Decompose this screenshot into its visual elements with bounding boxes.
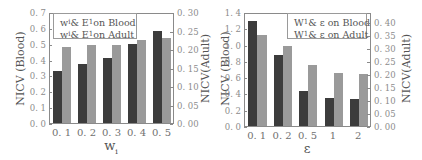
bar-adult (283, 46, 292, 126)
left-chart-x-axis-title: wi (104, 138, 118, 156)
x-title-sub: i (115, 147, 118, 156)
legend-text: & E (70, 17, 88, 28)
y-right-tick-label: 0. 20 (177, 45, 207, 55)
y-tick-mark (244, 78, 247, 79)
legend-text: W (294, 17, 304, 28)
bar-blood (350, 99, 359, 126)
y-tick-label: 0. 7 (24, 8, 46, 18)
y-tick-mark (49, 76, 52, 77)
bar-adult (334, 73, 343, 126)
bar-blood (53, 71, 62, 123)
left-chart-legend: wi & E1 on Blood wi & E1 on Adult (53, 13, 137, 39)
bar-adult (112, 45, 121, 123)
right-chart-panel: NICV (Blood) NICV(Adult) ε W1& ε on Bloo… (211, 0, 422, 160)
y-tick-label: 0. 4 (24, 56, 46, 66)
y-right-tick-label: 0. 05 (177, 101, 207, 111)
y-tick-mark (244, 127, 247, 128)
bar-adult (257, 35, 266, 126)
right-chart-x-axis-title: ε (304, 141, 311, 156)
x-tick-label: 0. 1 (245, 130, 269, 141)
legend-item-adult: W1& ε on Adult (291, 28, 363, 40)
y-right-tick-mark (367, 88, 370, 89)
bar-adult (62, 47, 71, 123)
bar-blood (274, 55, 283, 126)
y-tick-mark (49, 61, 52, 62)
legend-text: W (294, 29, 304, 40)
y-tick-mark (49, 13, 52, 14)
y-right-tick-label: 0. 05 (374, 109, 404, 119)
right-chart-legend: W1& ε on Blood W1& ε on Adult (287, 13, 367, 39)
x-tick-label: 0. 1 (50, 127, 74, 138)
x-tick-label: 0. 5 (296, 130, 320, 141)
bar-blood (299, 91, 308, 126)
y-tick-label: 0. 8 (219, 57, 241, 67)
y-right-tick-mark (170, 87, 173, 88)
y-tick-mark (49, 45, 52, 46)
y-right-tick-mark (367, 36, 370, 37)
y-tick-label: 0. 1 (24, 103, 46, 113)
bar-blood (128, 44, 137, 123)
y-tick-mark (244, 62, 247, 63)
y-right-tick-label: 0. 25 (177, 27, 207, 37)
x-tick-label: 0. 2 (270, 130, 294, 141)
y-right-tick-mark (367, 62, 370, 63)
y-right-tick-label: 0. 00 (374, 122, 404, 132)
x-tick-label: 0. 3 (100, 127, 124, 138)
y-right-tick-label: 0. 10 (177, 82, 207, 92)
y-tick-label: 0. 6 (219, 73, 241, 83)
y-right-tick-mark (367, 49, 370, 50)
y-right-tick-mark (367, 75, 370, 76)
y-right-tick-mark (367, 127, 370, 128)
y-tick-label: 0. 2 (219, 106, 241, 116)
y-tick-label: 0. 4 (219, 89, 241, 99)
legend-text: on Adult (93, 29, 134, 40)
y-tick-mark (244, 46, 247, 47)
legend-text: & E (70, 29, 88, 40)
bar-adult (308, 65, 317, 126)
y-tick-label: 0. 5 (24, 40, 46, 50)
y-tick-label: 0. 3 (24, 71, 46, 81)
y-right-tick-label: 0. 00 (177, 119, 207, 129)
y-tick-label: 1. 2 (219, 24, 241, 34)
y-right-tick-mark (170, 106, 173, 107)
y-right-tick-label: 0. 40 (374, 18, 404, 28)
legend-text: on Blood (93, 17, 135, 28)
y-tick-mark (49, 92, 52, 93)
y-tick-label: 0. 0 (24, 119, 46, 129)
y-right-tick-label: 0. 20 (374, 70, 404, 80)
y-tick-mark (244, 111, 247, 112)
x-title-main: w (104, 138, 115, 153)
bar-blood (248, 21, 257, 126)
legend-item-blood: W1& ε on Blood (291, 16, 363, 28)
y-tick-mark (49, 29, 52, 30)
y-right-tick-label: 0. 25 (374, 57, 404, 67)
y-right-tick-mark (170, 69, 173, 70)
x-tick-label: 2 (346, 130, 370, 141)
x-tick-label: 0. 2 (75, 127, 99, 138)
y-right-tick-mark (367, 114, 370, 115)
y-tick-mark (244, 29, 247, 30)
y-right-tick-label: 0. 15 (374, 83, 404, 93)
bar-adult (87, 45, 96, 123)
y-right-tick-mark (367, 101, 370, 102)
x-tick-label: 0. 5 (150, 127, 174, 138)
y-tick-label: 0. 6 (24, 24, 46, 34)
y-right-tick-label: 0. 30 (374, 44, 404, 54)
y-right-tick-mark (367, 23, 370, 24)
y-tick-label: 0. 2 (24, 87, 46, 97)
y-tick-mark (244, 13, 247, 14)
y-right-tick-label: 0. 30 (177, 8, 207, 18)
y-tick-label: 1. 4 (219, 8, 241, 18)
bar-blood (103, 58, 112, 123)
bar-blood (153, 31, 162, 123)
legend-item-blood: wi & E1 on Blood (57, 16, 133, 28)
bar-blood (78, 64, 87, 123)
bar-blood (325, 98, 334, 127)
y-right-tick-label: 0. 10 (374, 96, 404, 106)
legend-text: w (60, 17, 68, 28)
x-tick-label: 1 (321, 130, 345, 141)
y-right-tick-mark (170, 13, 173, 14)
left-chart-panel: NICV (Blood) NICV(Adult) wi wi & E1 on B… (0, 0, 211, 160)
legend-item-adult: wi & E1 on Adult (57, 28, 133, 40)
y-tick-mark (244, 94, 247, 95)
